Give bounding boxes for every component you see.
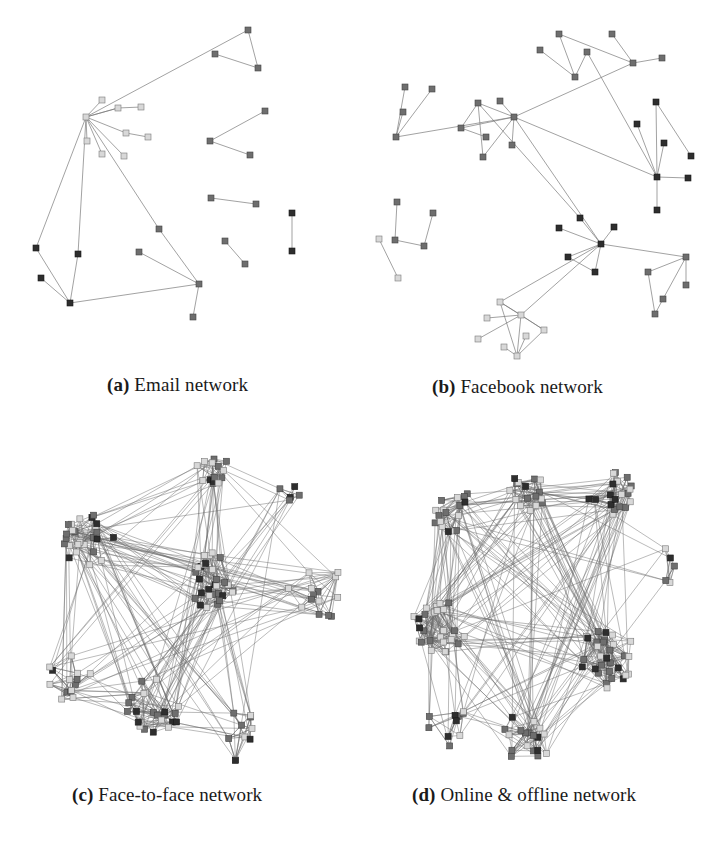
network-node — [660, 296, 666, 302]
network-node — [245, 27, 251, 33]
network-edge — [142, 597, 338, 681]
network-node — [206, 586, 212, 592]
network-node — [65, 522, 71, 528]
network-edge — [461, 128, 486, 137]
network-panel-d — [411, 470, 677, 760]
network-node — [91, 549, 97, 555]
network-panel-b — [376, 31, 694, 359]
network-node — [447, 743, 453, 749]
network-edge — [86, 117, 87, 141]
network-node — [195, 564, 201, 570]
network-edge — [71, 690, 138, 722]
network-node — [461, 633, 467, 639]
network-node — [518, 728, 524, 734]
network-node — [402, 84, 408, 90]
network-edge — [210, 111, 265, 141]
network-edge — [526, 486, 597, 642]
caption-text: Face-to-face network — [98, 784, 262, 805]
network-node — [197, 602, 203, 608]
network-node — [66, 555, 72, 561]
network-node — [457, 732, 463, 738]
network-node — [523, 333, 529, 339]
network-node — [75, 251, 81, 257]
network-node — [84, 138, 90, 144]
network-node — [623, 505, 629, 511]
network-node — [175, 703, 181, 709]
network-node — [198, 590, 204, 596]
network-node — [208, 195, 214, 201]
network-node — [68, 687, 74, 693]
network-node — [423, 605, 429, 611]
network-node — [659, 55, 665, 61]
network-edge — [514, 63, 633, 117]
caption-tag: (d) — [412, 784, 436, 805]
network-node — [654, 174, 660, 180]
network-edge — [36, 117, 86, 248]
network-node — [628, 638, 634, 644]
network-node — [172, 710, 178, 716]
network-edge — [539, 492, 614, 510]
network-node — [196, 576, 202, 582]
network-node — [427, 638, 433, 644]
network-node — [579, 664, 585, 670]
network-node — [592, 269, 598, 275]
network-node — [667, 555, 673, 561]
network-edge — [41, 278, 70, 303]
network-node — [136, 249, 142, 255]
network-node — [133, 708, 139, 714]
network-node — [111, 534, 117, 540]
network-edge — [478, 103, 580, 218]
network-edge — [97, 483, 218, 532]
network-node — [683, 282, 689, 288]
network-node — [87, 671, 93, 677]
network-node — [442, 649, 448, 655]
network-node — [91, 512, 97, 518]
network-node — [74, 549, 80, 555]
network-node — [94, 536, 100, 542]
network-edge — [637, 124, 657, 177]
network-node — [544, 751, 550, 757]
network-node — [609, 31, 615, 37]
network-node — [524, 495, 530, 501]
network-node — [480, 154, 486, 160]
network-node — [594, 643, 600, 649]
network-node — [309, 586, 315, 592]
network-edge — [575, 52, 587, 77]
network-edge — [656, 102, 691, 156]
network-node — [509, 142, 515, 148]
network-node — [506, 732, 512, 738]
network-node — [292, 484, 298, 490]
network-node — [61, 541, 67, 547]
network-edge — [62, 699, 179, 706]
network-node — [595, 629, 601, 635]
network-edge — [437, 510, 615, 611]
network-node — [607, 668, 613, 674]
network-node — [453, 718, 459, 724]
network-node — [448, 637, 454, 643]
network-edge — [309, 572, 338, 573]
network-edge — [657, 143, 664, 177]
network-node — [421, 243, 427, 249]
network-edge — [224, 470, 290, 500]
network-node — [430, 210, 436, 216]
network-node — [600, 639, 606, 645]
network-node — [202, 552, 208, 558]
network-node — [428, 647, 434, 653]
network-node — [612, 496, 618, 502]
network-node — [541, 327, 547, 333]
network-node — [139, 678, 145, 684]
network-node — [497, 299, 503, 305]
caption-tag: (a) — [107, 374, 129, 395]
nodes — [33, 27, 295, 320]
network-edge — [379, 239, 398, 278]
network-node — [165, 724, 171, 730]
network-node — [335, 569, 341, 575]
network-edge — [126, 133, 148, 137]
network-edge — [193, 284, 199, 317]
network-node — [615, 665, 621, 671]
network-node — [523, 483, 529, 489]
network-node — [585, 635, 591, 641]
network-node — [654, 207, 660, 213]
network-node — [685, 175, 691, 181]
network-node — [285, 586, 291, 592]
